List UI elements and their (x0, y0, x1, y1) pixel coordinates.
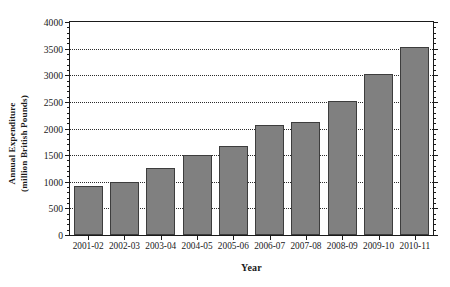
y-axis-minor-tick (67, 160, 70, 161)
y-axis-minor-tick (67, 144, 70, 145)
y-axis-minor-tick (67, 123, 70, 124)
x-axis-tick (306, 235, 307, 240)
y-axis-minor-tick (67, 176, 70, 177)
x-axis-tick (197, 235, 198, 240)
bar (110, 182, 139, 235)
y-axis-tick-label: 3000 (44, 70, 63, 81)
y-axis-tick-label: 2000 (44, 123, 63, 134)
y-axis-minor-tick (67, 139, 70, 140)
y-axis-minor-tick (67, 54, 70, 55)
y-axis-minor-tick (67, 86, 70, 87)
y-axis-minor-tick (433, 198, 436, 199)
y-axis-minor-tick (433, 166, 436, 167)
y-axis-minor-tick (433, 192, 436, 193)
y-axis-tick (433, 102, 438, 103)
bar (183, 155, 212, 235)
y-axis-minor-tick (433, 54, 436, 55)
bar (328, 101, 357, 235)
plot-area: 050010001500200025003000350040002001-022… (69, 21, 434, 236)
y-axis-minor-tick (433, 160, 436, 161)
y-axis-minor-tick (67, 38, 70, 39)
y-axis-minor-tick (67, 107, 70, 108)
y-axis-minor-tick (67, 150, 70, 151)
y-axis-minor-tick (433, 171, 436, 172)
y-axis-minor-tick (433, 203, 436, 204)
y-axis-minor-tick (433, 224, 436, 225)
bar (255, 125, 284, 235)
y-axis-tick (433, 49, 438, 50)
y-axis-minor-tick (67, 113, 70, 114)
y-axis-tick (65, 182, 70, 183)
y-axis-minor-tick (67, 171, 70, 172)
y-axis-title-line-2: (million British Pounds) (18, 95, 31, 192)
x-axis-title: Year (69, 262, 434, 273)
y-axis-tick (65, 129, 70, 130)
y-axis-tick (65, 155, 70, 156)
y-axis-minor-tick (67, 27, 70, 28)
y-axis-minor-tick (433, 59, 436, 60)
x-axis-tick (124, 235, 125, 240)
x-axis-tick-label: 2002-03 (109, 241, 140, 251)
bar (74, 186, 103, 235)
y-axis-minor-tick (433, 38, 436, 39)
x-axis-tick-label: 2007-08 (290, 241, 321, 251)
y-axis-tick (433, 208, 438, 209)
y-axis-minor-tick (67, 219, 70, 220)
bar (400, 47, 429, 235)
bar (146, 168, 175, 235)
y-axis-minor-tick (67, 91, 70, 92)
x-axis-tick (161, 235, 162, 240)
y-axis-tick-label: 3500 (44, 43, 63, 54)
y-axis-tick (65, 49, 70, 50)
y-axis-tick (433, 129, 438, 130)
y-axis-tick-label: 2500 (44, 96, 63, 107)
x-axis-tick-label: 2008-09 (327, 241, 358, 251)
y-axis-minor-tick (433, 33, 436, 34)
y-axis-minor-tick (433, 176, 436, 177)
y-axis-minor-tick (433, 70, 436, 71)
y-axis-tick (65, 102, 70, 103)
y-axis-minor-tick (433, 139, 436, 140)
y-axis-title-line-1: Annual Expenditure (6, 95, 19, 192)
y-axis-minor-tick (67, 65, 70, 66)
y-axis-tick-label: 500 (49, 203, 63, 214)
x-axis-tick-label: 2006-07 (254, 241, 285, 251)
y-axis-minor-tick (433, 91, 436, 92)
y-axis-tick-label: 0 (58, 230, 63, 241)
bar (291, 122, 320, 235)
y-axis-minor-tick (433, 27, 436, 28)
y-axis-minor-tick (433, 187, 436, 188)
y-axis-minor-tick (67, 70, 70, 71)
y-axis-minor-tick (67, 203, 70, 204)
x-axis-tick (415, 235, 416, 240)
y-axis-minor-tick (433, 81, 436, 82)
y-axis-minor-tick (433, 97, 436, 98)
y-gridline (70, 49, 433, 50)
y-axis-minor-tick (67, 81, 70, 82)
chart-figure: Annual Expenditure (million British Poun… (0, 0, 450, 287)
x-axis-tick (270, 235, 271, 240)
y-axis-tick (433, 182, 438, 183)
y-axis-tick (65, 22, 70, 23)
x-axis-tick-label: 2009-10 (363, 241, 394, 251)
y-axis-minor-tick (433, 150, 436, 151)
y-axis-minor-tick (433, 118, 436, 119)
x-axis-tick-label: 2001-02 (73, 241, 104, 251)
y-axis-minor-tick (433, 134, 436, 135)
y-axis-tick (65, 235, 70, 236)
x-axis-tick (342, 235, 343, 240)
y-axis-minor-tick (67, 192, 70, 193)
y-axis-minor-tick (433, 107, 436, 108)
y-axis-minor-tick (67, 134, 70, 135)
x-axis-tick-label: 2004-05 (182, 241, 213, 251)
y-axis-tick (433, 75, 438, 76)
y-axis-minor-tick (433, 113, 436, 114)
x-axis-tick (379, 235, 380, 240)
y-axis-tick (433, 235, 438, 236)
y-axis-minor-tick (433, 43, 436, 44)
x-axis-tick-label: 2003-04 (145, 241, 176, 251)
bar (364, 74, 393, 235)
y-axis-minor-tick (67, 166, 70, 167)
y-axis-minor-tick (67, 33, 70, 34)
bar (219, 146, 248, 235)
